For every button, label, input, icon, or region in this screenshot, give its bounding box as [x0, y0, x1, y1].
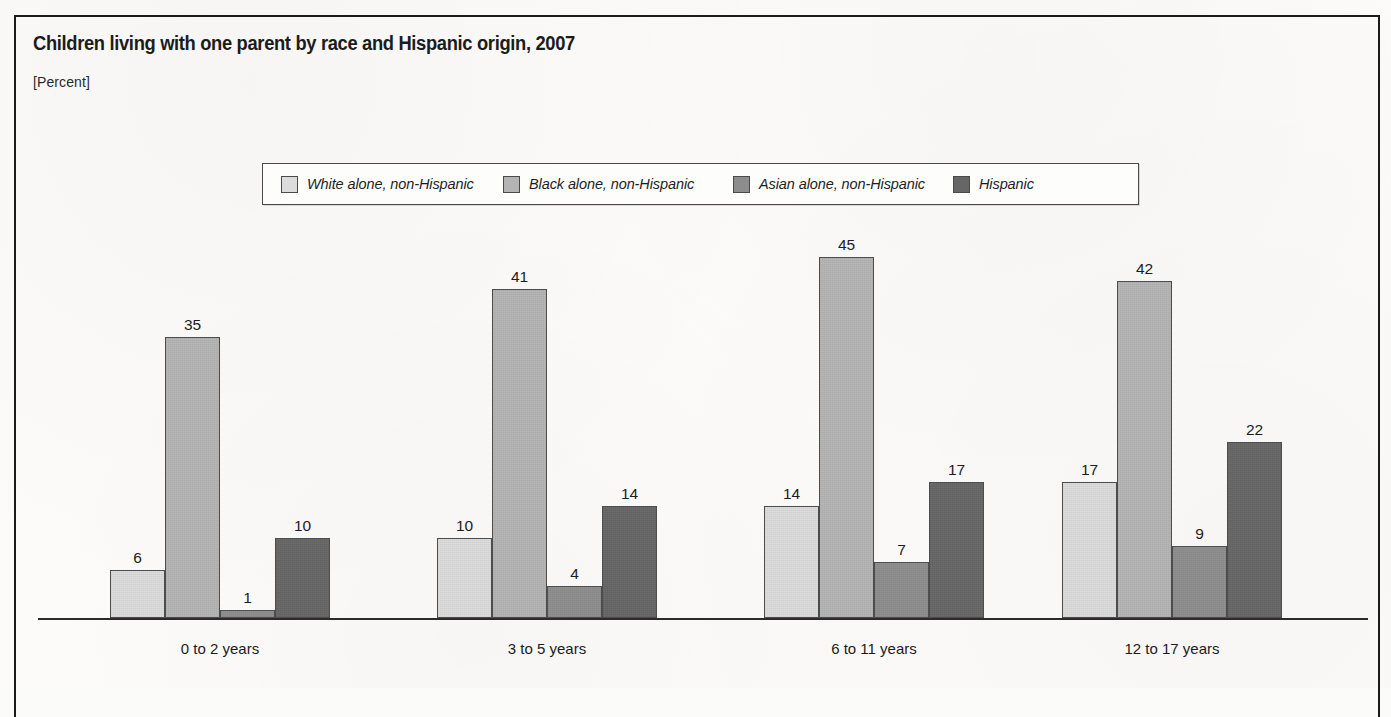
bar-value-label: 41 [492, 268, 547, 286]
bar [547, 586, 602, 618]
bar [492, 289, 547, 618]
bar [874, 562, 929, 618]
x-axis-category-label: 0 to 2 years [110, 640, 330, 657]
bar [1062, 482, 1117, 618]
chart-subtitle: [Percent] [33, 74, 90, 90]
bar-value-label: 17 [929, 461, 984, 479]
x-axis-category-label: 6 to 11 years [764, 640, 984, 657]
bar [220, 610, 275, 618]
bar-value-label: 7 [874, 541, 929, 559]
bar [1117, 281, 1172, 618]
bar-value-label: 22 [1227, 421, 1282, 439]
legend-item-1: Black alone, non-Hispanic [503, 164, 694, 204]
bar [929, 482, 984, 618]
legend-swatch-icon-2 [733, 176, 750, 193]
bar [1172, 546, 1227, 618]
bar-value-label: 9 [1172, 525, 1227, 543]
bar [819, 257, 874, 618]
legend-item-2: Asian alone, non-Hispanic [733, 164, 925, 204]
legend-item-3: Hispanic [953, 164, 1034, 204]
bar [437, 538, 492, 618]
bar-value-label: 1 [220, 589, 275, 607]
bar-value-label: 17 [1062, 461, 1117, 479]
x-axis-line [38, 618, 1368, 620]
legend-label-3: Hispanic [979, 176, 1034, 192]
bar [602, 506, 657, 618]
bar [764, 506, 819, 618]
bar-value-label: 45 [819, 236, 874, 254]
bar-value-label: 35 [165, 316, 220, 334]
legend-swatch-icon-0 [281, 176, 298, 193]
bar-value-label: 14 [764, 485, 819, 503]
chart-title: Children living with one parent by race … [33, 32, 575, 55]
x-axis-category-label: 3 to 5 years [437, 640, 657, 657]
x-axis-category-label: 12 to 17 years [1062, 640, 1282, 657]
bar [110, 570, 165, 618]
chart-legend: White alone, non-HispanicBlack alone, no… [262, 163, 1139, 205]
bar-value-label: 42 [1117, 260, 1172, 278]
legend-label-0: White alone, non-Hispanic [307, 176, 474, 192]
bar [1227, 442, 1282, 618]
legend-item-0: White alone, non-Hispanic [281, 164, 474, 204]
bar-value-label: 4 [547, 565, 602, 583]
legend-label-2: Asian alone, non-Hispanic [759, 176, 925, 192]
bar-value-label: 6 [110, 549, 165, 567]
bar-value-label: 14 [602, 485, 657, 503]
bar [165, 337, 220, 618]
bar [275, 538, 330, 618]
bar-value-label: 10 [437, 517, 492, 535]
legend-swatch-icon-3 [953, 176, 970, 193]
legend-swatch-icon-1 [503, 176, 520, 193]
legend-label-1: Black alone, non-Hispanic [529, 176, 694, 192]
bar-value-label: 10 [275, 517, 330, 535]
